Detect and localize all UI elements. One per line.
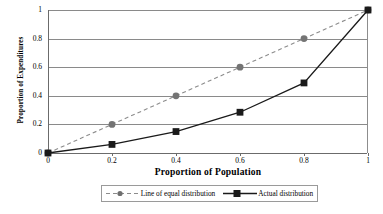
legend-label-equal-distribution: Line of equal distribution [141, 189, 215, 198]
data-point-marker [301, 80, 308, 87]
legend-marker-circle-dashed-icon [106, 188, 140, 199]
data-point-marker [237, 64, 244, 71]
legend-entry-actual-distribution[interactable]: Actual distribution [223, 188, 313, 199]
data-point-marker [365, 7, 372, 14]
chart-legend: Line of equal distribution Actual distri… [101, 185, 318, 202]
lorenz-curve-chart: Proportion of Expenditures 00.20.40.60.8… [0, 0, 383, 214]
series-equal-distribution [45, 7, 372, 157]
data-point-marker [237, 109, 244, 116]
legend-marker-square-solid-icon [223, 188, 257, 199]
data-point-marker [109, 141, 116, 148]
series-line [48, 10, 368, 153]
legend-label-actual-distribution: Actual distribution [258, 189, 313, 198]
data-series-layer [0, 0, 383, 214]
data-point-marker [173, 128, 180, 135]
x-axis-title: Proportion of Population [48, 167, 368, 177]
data-point-marker [45, 150, 52, 157]
data-point-marker [109, 121, 116, 128]
data-point-marker [301, 35, 308, 42]
data-point-marker [173, 92, 180, 99]
legend-entry-equal-distribution[interactable]: Line of equal distribution [106, 188, 215, 199]
